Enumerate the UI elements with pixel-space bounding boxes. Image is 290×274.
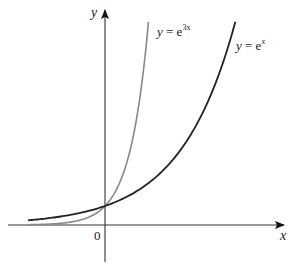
x-axis-label: x <box>279 228 287 243</box>
y-axis-label: y <box>89 5 98 20</box>
curve-e-x <box>28 22 235 221</box>
label-e-x: y = ex <box>234 37 265 53</box>
exponential-graph: y x 0 y = e3x y = ex <box>0 0 290 274</box>
origin-label: 0 <box>94 228 101 243</box>
label-e-3x: y = e3x <box>155 23 190 39</box>
